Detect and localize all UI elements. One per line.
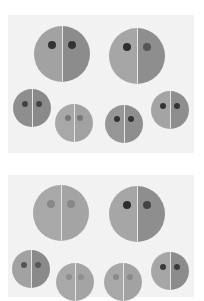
right-eye-dot <box>77 115 83 121</box>
face-divider <box>124 105 125 143</box>
right-eye-dot <box>128 116 134 122</box>
right-eye-dot <box>127 274 133 280</box>
face-divider <box>62 26 63 82</box>
face-right-half <box>31 250 50 288</box>
face-left-half <box>33 185 61 241</box>
right-eye-dot <box>78 274 84 280</box>
face-divider <box>61 185 62 241</box>
face-left-half <box>56 263 75 301</box>
left-eye-dot <box>113 274 119 280</box>
left-eye-dot <box>123 43 131 51</box>
face-divider <box>74 104 75 142</box>
face-circle <box>56 263 94 301</box>
face-circle <box>109 28 165 84</box>
face-left-half <box>105 105 124 143</box>
face-circle <box>109 186 165 242</box>
left-eye-dot <box>123 201 131 209</box>
face-divider <box>137 28 138 84</box>
face-divider <box>170 252 171 290</box>
face-right-half <box>75 263 94 301</box>
face-left-half <box>104 263 123 301</box>
face-circle <box>12 250 50 288</box>
face-left-half <box>109 186 137 242</box>
left-eye-dot <box>114 116 120 122</box>
right-eye-dot <box>143 43 151 51</box>
face-circle <box>104 263 142 301</box>
left-eye-dot <box>22 101 28 107</box>
right-eye-dot <box>35 262 41 268</box>
right-eye-dot <box>143 201 151 209</box>
face-right-half <box>170 252 189 290</box>
right-eye-dot <box>36 101 42 107</box>
face-left-half <box>34 26 62 82</box>
left-eye-dot <box>21 262 27 268</box>
face-right-half <box>124 105 143 143</box>
face-right-half <box>61 185 89 241</box>
face-left-half <box>151 91 170 129</box>
face-right-half <box>74 104 93 142</box>
face-divider <box>31 250 32 288</box>
face-left-half <box>109 28 137 84</box>
right-eye-dot <box>174 264 180 270</box>
face-right-half <box>137 186 165 242</box>
left-eye-dot <box>48 41 56 49</box>
face-left-half <box>55 104 74 142</box>
face-left-half <box>12 250 31 288</box>
face-right-half <box>170 91 189 129</box>
face-left-half <box>13 89 32 127</box>
left-eye-dot <box>65 115 71 121</box>
face-right-half <box>123 263 142 301</box>
face-divider <box>123 263 124 301</box>
face-divider <box>137 186 138 242</box>
left-eye-dot <box>160 264 166 270</box>
face-circle <box>105 105 143 143</box>
face-divider <box>170 91 171 129</box>
face-circle <box>151 91 189 129</box>
face-circle <box>34 26 90 82</box>
right-eye-dot <box>68 41 76 49</box>
right-eye-dot <box>67 200 75 208</box>
left-eye-dot <box>66 274 72 280</box>
face-right-half <box>137 28 165 84</box>
face-right-half <box>32 89 51 127</box>
left-eye-dot <box>47 200 55 208</box>
left-eye-dot <box>160 103 166 109</box>
face-right-half <box>62 26 90 82</box>
face-circle <box>55 104 93 142</box>
face-divider <box>75 263 76 301</box>
face-divider <box>32 89 33 127</box>
face-circle <box>151 252 189 290</box>
face-left-half <box>151 252 170 290</box>
right-eye-dot <box>174 103 180 109</box>
face-circle <box>33 185 89 241</box>
face-circle <box>13 89 51 127</box>
